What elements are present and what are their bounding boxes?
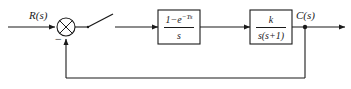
- plant-transfer-function: k s(s+1): [250, 10, 292, 44]
- zoh-numerator-base: 1−e: [166, 14, 182, 25]
- zoh-numerator-exponent: −Ts: [182, 12, 193, 20]
- plant-numerator-base: k: [269, 14, 273, 25]
- output-signal-label: C(s): [296, 10, 315, 21]
- block-diagram: R(s) C(s) − 1−e−Ts s k s(s+1): [0, 0, 351, 89]
- sampler-switch[interactable]: [88, 14, 113, 27]
- plant-numerator: k: [269, 14, 273, 26]
- plant-denominator: s(s+1): [258, 29, 284, 41]
- zoh-fraction-bar: [164, 27, 194, 28]
- plant-fraction-bar: [256, 27, 286, 28]
- zoh-numerator: 1−e−Ts: [166, 14, 193, 26]
- zoh-denominator: s: [177, 29, 181, 41]
- zero-order-hold-transfer-function: 1−e−Ts s: [158, 10, 200, 44]
- feedback-sign-label: −: [55, 33, 62, 45]
- input-signal-label: R(s): [29, 10, 47, 21]
